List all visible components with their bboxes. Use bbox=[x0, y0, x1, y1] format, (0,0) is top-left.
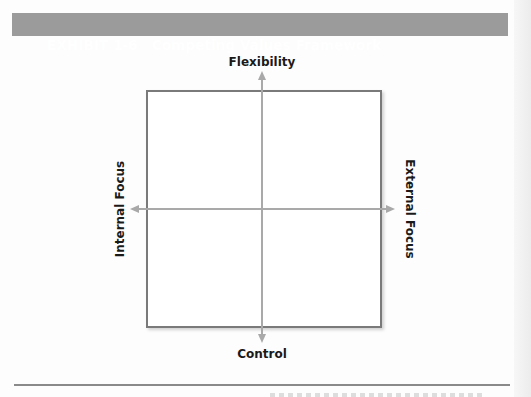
arrow-down-icon bbox=[258, 334, 266, 343]
footer-divider bbox=[14, 384, 510, 386]
axis-label-control: Control bbox=[237, 347, 287, 361]
exhibit-title: EXHIBIT 1-6Competing Values Framework bbox=[28, 14, 381, 77]
axis-label-external-focus: External Focus bbox=[403, 159, 417, 258]
exhibit-number: EXHIBIT 1-6 bbox=[47, 37, 138, 53]
clipped-source-line bbox=[270, 393, 485, 397]
arrow-left-icon bbox=[130, 205, 139, 213]
axis-label-internal-focus: Internal Focus bbox=[113, 161, 127, 258]
arrow-right-icon bbox=[386, 205, 395, 213]
page-edge bbox=[514, 0, 531, 397]
vertical-axis bbox=[261, 76, 263, 338]
exhibit-name: Competing Values Framework bbox=[152, 37, 381, 53]
arrow-up-icon bbox=[258, 71, 266, 80]
exhibit-header: EXHIBIT 1-6Competing Values Framework bbox=[12, 13, 508, 36]
horizontal-axis bbox=[135, 208, 389, 210]
axis-label-flexibility: Flexibility bbox=[229, 55, 296, 69]
